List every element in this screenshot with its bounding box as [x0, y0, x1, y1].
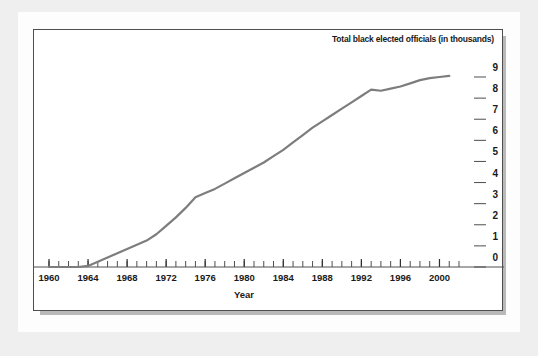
y-axis-tick-label: 3	[486, 190, 498, 200]
x-axis-tick-label: 1972	[156, 273, 177, 283]
y-axis-tick-label: 4	[486, 169, 498, 179]
y-axis-tick-label: 8	[486, 84, 498, 94]
y-axis-tick-label: 5	[486, 147, 498, 157]
y-axis-tick-label: 7	[486, 105, 498, 115]
x-axis-tick-label: 1996	[390, 273, 411, 283]
y-axis-tick-label: 2	[486, 211, 498, 221]
y-axis-tick-label: 0	[486, 253, 498, 263]
x-axis-tick-label: 1992	[351, 273, 372, 283]
figure-canvas: Total black elected officials (in thousa…	[0, 0, 538, 356]
y-axis-tick-label: 1	[486, 232, 498, 242]
x-axis-tick-label: 1988	[312, 273, 333, 283]
x-axis-tick-label: 2000	[429, 273, 450, 283]
x-axis-tick-label: 1976	[195, 273, 216, 283]
x-axis-tick-label: 1964	[77, 273, 98, 283]
x-axis-title: Year	[34, 289, 454, 300]
line-chart-plot	[34, 30, 504, 312]
x-axis-tick-label: 1980	[234, 273, 255, 283]
y-axis-ticks	[474, 77, 486, 267]
chart-frame: Total black elected officials (in thousa…	[33, 29, 503, 311]
data-series-line	[49, 76, 449, 267]
x-axis-tick-label: 1960	[38, 273, 59, 283]
x-axis-minor-ticks	[49, 261, 459, 267]
x-axis-tick-label: 1984	[273, 273, 294, 283]
x-axis-tick-label: 1968	[117, 273, 138, 283]
y-axis-tick-label: 6	[486, 126, 498, 136]
y-axis-tick-label: 9	[486, 63, 498, 73]
